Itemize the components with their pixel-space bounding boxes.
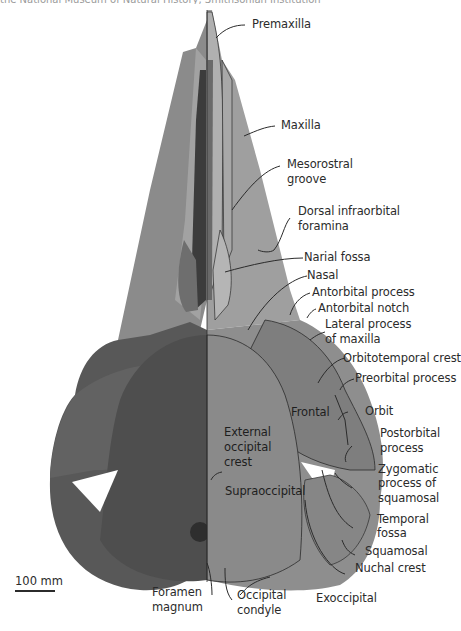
label-occipital-condyle-2: condyle	[237, 604, 281, 618]
label-lateral-process-1: Lateral process	[325, 318, 411, 332]
label-frontal: Frontal	[291, 406, 330, 420]
label-postorbital-process-2: process	[380, 442, 424, 456]
label-mesorostral-groove-1: Mesorostral	[287, 158, 353, 172]
label-external-occipital-2: occipital	[224, 441, 271, 455]
label-occipital-condyle-1: Occipital	[237, 589, 286, 603]
label-postorbital-process-1: Postorbital	[380, 427, 440, 441]
label-foramen-magnum-2: magnum	[152, 601, 203, 615]
label-exoccipital: Exoccipital	[316, 592, 377, 606]
skull-left-photo-half	[50, 20, 210, 590]
label-lateral-process-2: of maxilla	[325, 333, 380, 347]
label-preorbital-process: Preorbital process	[355, 372, 456, 386]
label-maxilla: Maxilla	[281, 119, 321, 133]
label-premaxilla: Premaxilla	[252, 18, 311, 32]
label-narial-fossa: Narial fossa	[304, 251, 370, 265]
label-antorbital-notch: Antorbital notch	[318, 302, 409, 316]
label-external-occipital-1: External	[224, 426, 271, 440]
label-zygomatic-2: process of	[378, 477, 436, 491]
label-dorsal-infraorbital-1: Dorsal infraorbital	[298, 205, 400, 219]
label-nuchal-crest: Nuchal crest	[355, 562, 426, 576]
label-squamosal: Squamosal	[365, 545, 428, 559]
label-external-occipital-3: crest	[224, 456, 252, 470]
scale-bar	[15, 590, 55, 592]
label-zygomatic-1: Zygomatic	[378, 463, 438, 477]
label-mesorostral-groove-2: groove	[287, 173, 326, 187]
label-temporal-fossa-1: Temporal	[377, 513, 429, 527]
label-dorsal-infraorbital-2: foramina	[298, 220, 349, 234]
label-zygomatic-3: squamosal	[378, 492, 439, 506]
label-temporal-fossa-2: fossa	[377, 527, 407, 541]
label-supraoccipital: Supraoccipital	[225, 485, 305, 499]
label-nasal: Nasal	[307, 269, 338, 283]
scale-bar-label: 100 mm	[15, 574, 63, 588]
label-foramen-magnum-1: Foramen	[152, 586, 202, 600]
label-orbitotemporal-crest: Orbitotemporal crest	[343, 352, 461, 366]
label-antorbital-process: Antorbital process	[312, 286, 415, 300]
label-orbit: Orbit	[365, 405, 393, 419]
